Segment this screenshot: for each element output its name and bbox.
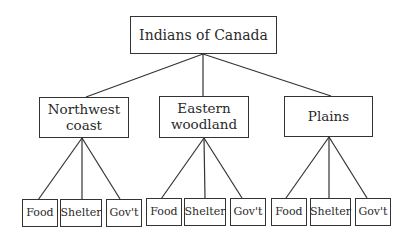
region-label: Northwest coast: [48, 102, 120, 133]
leaf-label: Food: [26, 207, 53, 220]
region-label-line2: woodland: [171, 116, 237, 132]
leaf-label: Shelter: [310, 206, 351, 219]
leaf-node-govt: Gov't: [230, 198, 266, 226]
region-node-eastern: Eastern woodland: [159, 96, 249, 138]
region-node-northwest: Northwest coast: [39, 97, 129, 138]
leaf-node-govt: Gov't: [355, 198, 391, 226]
leaf-node-shelter: Shelter: [310, 198, 351, 226]
leaf-label: Shelter: [61, 207, 102, 220]
root-label: Indians of Canada: [139, 27, 268, 43]
leaf-node-food: Food: [146, 198, 182, 226]
region-label-line2: coast: [66, 117, 102, 133]
leaf-label: Gov't: [109, 207, 138, 220]
region-label: Eastern woodland: [171, 101, 237, 132]
leaf-node-govt: Gov't: [106, 199, 142, 227]
leaf-node-shelter: Shelter: [60, 199, 102, 227]
leaf-label: Gov't: [358, 206, 387, 219]
region-label-line1: Northwest: [48, 101, 120, 117]
region-label: Plains: [308, 109, 349, 125]
region-node-plains: Plains: [284, 96, 373, 137]
leaf-node-shelter: Shelter: [184, 198, 226, 226]
root-node: Indians of Canada: [130, 16, 277, 54]
leaf-label: Shelter: [185, 206, 226, 219]
leaf-node-food: Food: [271, 198, 307, 226]
region-label-line1: Eastern: [177, 100, 230, 116]
leaf-label: Gov't: [233, 206, 262, 219]
leaf-label: Food: [150, 206, 177, 219]
leaf-node-food: Food: [22, 199, 58, 227]
leaf-label: Food: [275, 206, 302, 219]
